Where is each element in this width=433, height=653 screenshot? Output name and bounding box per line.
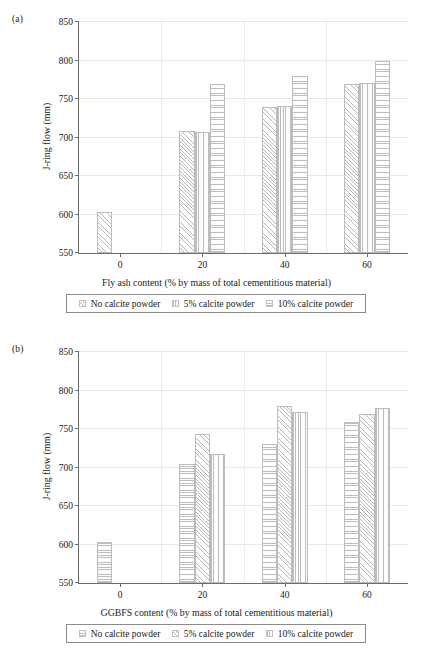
y-tick-label: 850 — [59, 17, 73, 27]
y-tick-label: 700 — [59, 463, 73, 473]
gridline-vertical — [161, 22, 162, 253]
gridline-vertical — [161, 352, 162, 583]
panel-a-tag: (a) — [12, 14, 23, 24]
y-tick-label: 650 — [59, 171, 73, 181]
legend-label: No calcite powder — [91, 299, 161, 309]
bar — [344, 84, 359, 253]
legend-swatch-icon — [79, 300, 86, 307]
bar — [375, 408, 390, 583]
bar — [375, 61, 390, 253]
x-tick-label: 20 — [198, 260, 208, 270]
bar — [277, 106, 292, 253]
x-tick-label: 60 — [362, 260, 372, 270]
bar — [292, 412, 307, 583]
bar — [210, 84, 225, 253]
y-tick-mark — [75, 98, 79, 99]
x-tick-label: 40 — [280, 590, 290, 600]
y-tick-mark — [75, 21, 79, 22]
y-tick-label: 700 — [59, 133, 73, 143]
legend-swatch-icon — [172, 300, 179, 307]
bar — [179, 131, 194, 253]
bar — [262, 444, 277, 583]
legend-swatch-icon — [266, 630, 273, 637]
x-tick-mark — [202, 583, 203, 587]
legend-label: 10% calcite powder — [278, 299, 353, 309]
y-tick-label: 800 — [59, 56, 73, 66]
legend-item: 10% calcite powder — [266, 299, 353, 309]
bar — [195, 434, 210, 583]
gridline-vertical — [244, 352, 245, 583]
bar — [179, 464, 194, 583]
x-tick-mark — [120, 253, 121, 257]
bar — [262, 107, 277, 253]
gridline-vertical — [326, 352, 327, 583]
y-tick-mark — [75, 582, 79, 583]
y-tick-mark — [75, 60, 79, 61]
gridline-vertical — [326, 22, 327, 253]
y-tick-label: 750 — [59, 94, 73, 104]
y-tick-mark — [75, 544, 79, 545]
legend-label: 5% calcite powder — [184, 299, 255, 309]
y-tick-label: 650 — [59, 501, 73, 511]
y-tick-mark — [75, 252, 79, 253]
panel-a: (a) 5506006507007508008500204060 Fly ash… — [0, 0, 433, 330]
y-tick-label: 800 — [59, 386, 73, 396]
x-tick-mark — [120, 583, 121, 587]
legend-label: 10% calcite powder — [278, 629, 353, 639]
bar — [292, 76, 307, 253]
y-tick-mark — [75, 214, 79, 215]
panel-a-plot-area: 5506006507007508008500204060 — [78, 22, 408, 254]
y-tick-label: 550 — [59, 248, 73, 258]
x-tick-mark — [285, 253, 286, 257]
panel-a-legend: No calcite powder5% calcite powder10% ca… — [66, 294, 366, 313]
x-tick-label: 40 — [280, 260, 290, 270]
y-tick-mark — [75, 137, 79, 138]
y-tick-label: 850 — [59, 347, 73, 357]
y-tick-label: 550 — [59, 578, 73, 588]
x-tick-mark — [367, 253, 368, 257]
bar — [359, 414, 374, 583]
panel-b-plot: 5506006507007508008500204060 — [78, 352, 408, 584]
legend-swatch-icon — [79, 630, 86, 637]
y-tick-label: 600 — [59, 210, 73, 220]
y-tick-mark — [75, 390, 79, 391]
x-tick-mark — [285, 583, 286, 587]
legend-item: 5% calcite powder — [172, 629, 255, 639]
bar — [97, 212, 112, 253]
panel-b-legend: No calcite powder5% calcite powder10% ca… — [66, 624, 366, 643]
legend-label: 5% calcite powder — [184, 629, 255, 639]
bar — [359, 83, 374, 253]
bar — [195, 132, 210, 253]
panel-a-plot: 5506006507007508008500204060 — [78, 22, 408, 254]
legend-swatch-icon — [266, 300, 273, 307]
legend-label: No calcite powder — [91, 629, 161, 639]
panel-b-tag: (b) — [12, 344, 24, 354]
y-tick-mark — [75, 175, 79, 176]
y-tick-label: 750 — [59, 424, 73, 434]
legend-item: No calcite powder — [79, 299, 161, 309]
panel-a-y-axis-title: J-ring flow (mm) — [41, 76, 52, 196]
panel-b-x-axis-title: GGBFS content (% by mass of total cement… — [0, 607, 433, 618]
panel-b-y-axis-title: J-ring flow (mm) — [41, 406, 52, 526]
panel-b: (b) 5506006507007508008500204060 GGBFS c… — [0, 330, 433, 653]
bar — [344, 422, 359, 583]
y-tick-mark — [75, 505, 79, 506]
gridline-vertical — [244, 22, 245, 253]
y-tick-mark — [75, 467, 79, 468]
panel-b-plot-area: 5506006507007508008500204060 — [78, 352, 408, 584]
x-tick-mark — [367, 583, 368, 587]
y-tick-mark — [75, 428, 79, 429]
x-tick-label: 60 — [362, 590, 372, 600]
legend-swatch-icon — [172, 630, 179, 637]
x-tick-label: 0 — [118, 590, 123, 600]
figure-container: (a) 5506006507007508008500204060 Fly ash… — [0, 0, 433, 653]
legend-item: 10% calcite powder — [266, 629, 353, 639]
legend-item: 5% calcite powder — [172, 299, 255, 309]
y-tick-mark — [75, 351, 79, 352]
x-tick-mark — [202, 253, 203, 257]
bar — [277, 406, 292, 583]
bar — [97, 542, 112, 583]
x-tick-label: 0 — [118, 260, 123, 270]
bar — [210, 454, 225, 583]
y-tick-label: 600 — [59, 540, 73, 550]
